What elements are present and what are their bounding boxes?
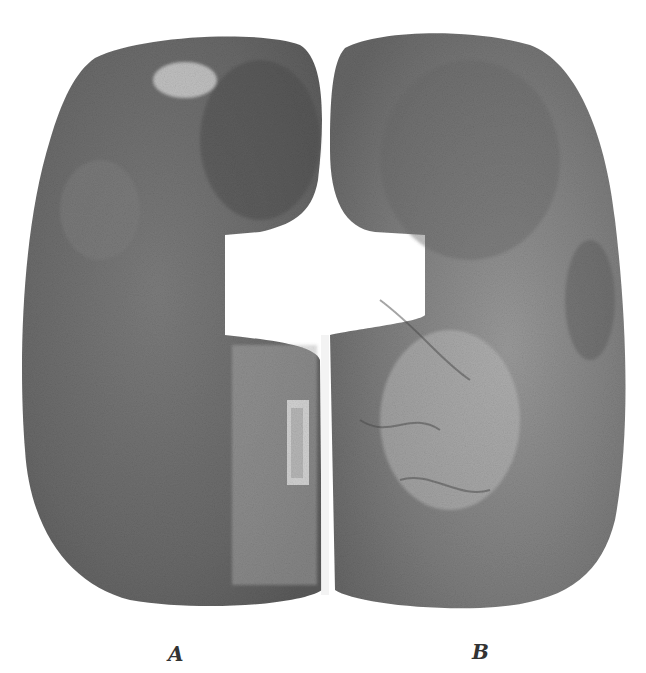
- kidney-halves-image: [0, 0, 646, 673]
- divider: [321, 335, 329, 595]
- panel-label-b: B: [472, 640, 489, 664]
- panel-label-a: A: [168, 642, 184, 666]
- kidney-figure: A B: [0, 0, 646, 673]
- kidney-half-a: [22, 36, 322, 606]
- kidney-half-b: [330, 33, 626, 608]
